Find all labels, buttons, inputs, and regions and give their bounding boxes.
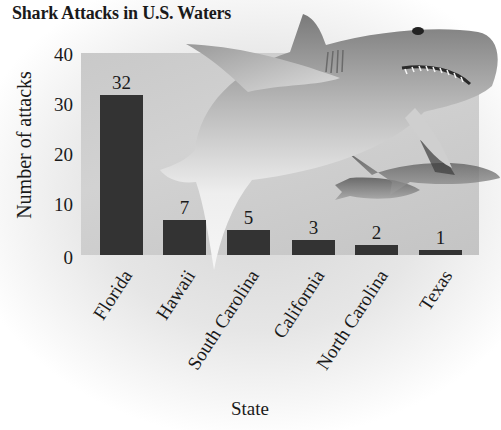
data-label: 5 xyxy=(227,208,270,228)
bar-california xyxy=(292,240,335,255)
chart-title: Shark Attacks in U.S. Waters xyxy=(12,3,231,24)
data-label: 2 xyxy=(355,223,398,243)
chart-figure: Shark Attacks in U.S. Waters Number of a… xyxy=(0,0,501,430)
bar-hawaii xyxy=(163,220,206,255)
data-label: 3 xyxy=(292,218,335,238)
y-tick-label: 30 xyxy=(33,94,73,116)
data-label: 1 xyxy=(419,228,462,248)
data-label: 32 xyxy=(100,73,143,93)
bar-texas xyxy=(419,250,462,255)
x-axis-label: State xyxy=(225,398,275,420)
y-tick-label: 0 xyxy=(33,247,73,269)
y-tick-label: 20 xyxy=(33,144,73,166)
bar-florida xyxy=(100,95,143,255)
y-tick-label: 40 xyxy=(33,44,73,66)
bar-north-carolina xyxy=(355,245,398,255)
data-label: 7 xyxy=(163,198,206,218)
bar-south-carolina xyxy=(227,230,270,255)
y-tick-label: 10 xyxy=(33,194,73,216)
